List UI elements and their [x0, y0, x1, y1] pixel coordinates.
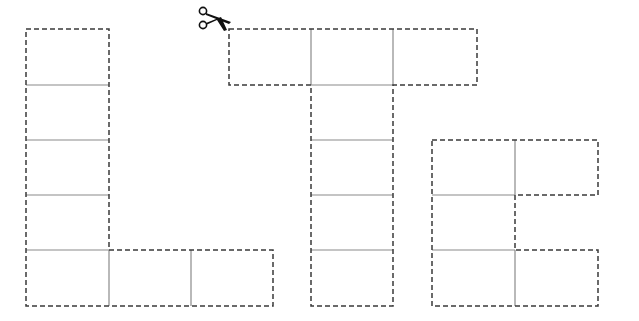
letter-template-canvas: [0, 0, 639, 321]
background: [0, 0, 639, 321]
